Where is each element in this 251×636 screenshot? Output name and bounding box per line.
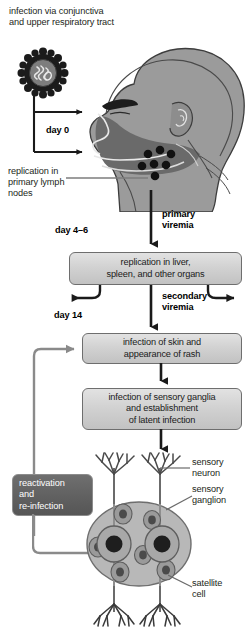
figure-canvas: infection via conjunctiva and upper resp…	[0, 0, 251, 636]
box-replication-organs: replication in liver, spleen, and other …	[69, 252, 242, 285]
sensory-ganglion-leader-line	[166, 494, 194, 512]
satellite-cell-leader-line	[168, 573, 194, 589]
lymph-node-leader-line	[66, 176, 148, 180]
primary-viremia-label: primary viremia	[162, 209, 195, 230]
human-head-sagittal-illustration	[76, 44, 251, 212]
lymph-nodes-label: replication in primary lymph nodes	[8, 166, 74, 200]
figure-title: infection via conjunctiva and upper resp…	[9, 6, 189, 28]
box-reactivation: reactivation and re-infection	[12, 474, 93, 516]
virus-particle-icon	[12, 44, 74, 102]
sensory-neuron-leader-line	[160, 466, 190, 470]
box-skin-rash: infection of skin and appearance of rash	[82, 333, 242, 364]
day0-label: day 0	[46, 125, 69, 136]
sensory-neuron-label: sensory neuron	[192, 457, 250, 479]
sensory-ganglion-illustration	[82, 452, 196, 636]
satellite-cell-label: satellite cell	[192, 578, 250, 600]
secondary-viremia-label: secondary viremia	[162, 291, 207, 312]
sensory-ganglion-label: sensory ganglion	[192, 484, 250, 506]
skin-to-ganglia-arrow	[154, 363, 168, 389]
secondary-viremia-arrow	[144, 285, 158, 335]
primary-viremia-arrow	[144, 190, 158, 252]
day14-label: day 14	[54, 310, 82, 321]
box-sensory-ganglia-latency: infection of sensory ganglia and establi…	[82, 388, 242, 430]
day4-6-label: day 4–6	[55, 225, 88, 236]
